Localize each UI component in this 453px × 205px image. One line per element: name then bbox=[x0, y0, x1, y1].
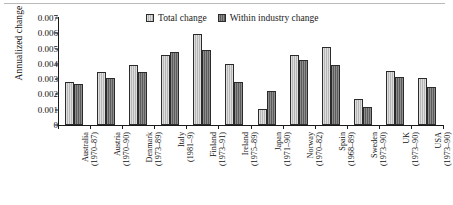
bar-within-industry-change[interactable] bbox=[331, 65, 340, 125]
x-tick-label: UK(1973–90) bbox=[402, 132, 421, 202]
bar-within-industry-change[interactable] bbox=[202, 50, 211, 125]
bar-group bbox=[290, 18, 308, 125]
x-tick-label: Japan(1971–90) bbox=[274, 132, 293, 202]
bar-group bbox=[225, 18, 243, 125]
x-tick-mark bbox=[251, 125, 252, 129]
x-tick-label: Finland(1973–91) bbox=[209, 132, 228, 202]
bar-group bbox=[193, 18, 211, 125]
x-tick-label: Spain(1968–89) bbox=[338, 132, 357, 202]
bar-within-industry-change[interactable] bbox=[74, 84, 83, 125]
bar-within-industry-change[interactable] bbox=[427, 87, 436, 125]
bar-total-change[interactable] bbox=[258, 109, 267, 125]
bar-group bbox=[65, 18, 83, 125]
bar-within-industry-change[interactable] bbox=[170, 52, 179, 125]
x-tick-label: Norway(1970–82) bbox=[306, 132, 325, 202]
x-tick-label: Australia(1970–87) bbox=[81, 132, 100, 202]
x-tick-mark bbox=[411, 125, 412, 129]
x-tick-label: Austria(1970–90) bbox=[113, 132, 132, 202]
bar-total-change[interactable] bbox=[129, 65, 138, 125]
bar-group bbox=[322, 18, 340, 125]
x-tick-mark bbox=[347, 125, 348, 129]
bar-within-industry-change[interactable] bbox=[363, 107, 372, 125]
x-tick-mark bbox=[315, 125, 316, 129]
bar-within-industry-change[interactable] bbox=[395, 77, 404, 125]
bar-group bbox=[386, 18, 404, 125]
bar-total-change[interactable] bbox=[65, 82, 74, 125]
bar-within-industry-change[interactable] bbox=[267, 91, 276, 125]
x-tick-label: Ireland(1975–89) bbox=[241, 132, 260, 202]
x-tick-mark bbox=[154, 125, 155, 129]
bar-total-change[interactable] bbox=[322, 47, 331, 125]
x-tick-mark bbox=[443, 125, 444, 129]
bar-total-change[interactable] bbox=[418, 78, 427, 125]
bar-total-change[interactable] bbox=[193, 34, 202, 125]
x-tick-label: Sweden(1973–90) bbox=[370, 132, 389, 202]
bar-total-change[interactable] bbox=[225, 64, 234, 125]
x-tick-label: USA(1973–90) bbox=[434, 132, 453, 202]
bar-group bbox=[97, 18, 115, 125]
x-tick-mark bbox=[186, 125, 187, 129]
x-tick-mark bbox=[90, 125, 91, 129]
bar-within-industry-change[interactable] bbox=[299, 60, 308, 125]
bar-within-industry-change[interactable] bbox=[106, 78, 115, 125]
bar-total-change[interactable] bbox=[97, 72, 106, 126]
bar-within-industry-change[interactable] bbox=[138, 72, 147, 125]
page-top-rule bbox=[4, 3, 445, 4]
x-tick-mark bbox=[58, 125, 59, 129]
bar-group bbox=[161, 18, 179, 125]
bar-group bbox=[354, 18, 372, 125]
bar-total-change[interactable] bbox=[354, 99, 363, 125]
x-tick-mark bbox=[379, 125, 380, 129]
bar-total-change[interactable] bbox=[161, 55, 170, 125]
x-tick-label: Denmark(1973–89) bbox=[145, 132, 164, 202]
bar-total-change[interactable] bbox=[386, 71, 395, 125]
bar-within-industry-change[interactable] bbox=[234, 82, 243, 125]
bar-total-change[interactable] bbox=[290, 55, 299, 125]
plot-area bbox=[58, 18, 443, 125]
x-tick-mark bbox=[122, 125, 123, 129]
x-tick-mark bbox=[283, 125, 284, 129]
x-tick-label: Italy(1981–9) bbox=[177, 132, 196, 202]
x-tick-mark bbox=[218, 125, 219, 129]
bar-group bbox=[418, 18, 436, 125]
bar-group bbox=[258, 18, 276, 125]
bar-group bbox=[129, 18, 147, 125]
